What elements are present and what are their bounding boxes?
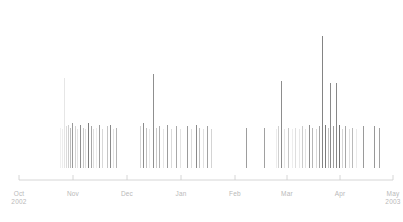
bar xyxy=(143,123,144,168)
bar xyxy=(171,129,172,168)
bar xyxy=(62,129,63,168)
bar xyxy=(281,81,282,168)
bar xyxy=(75,126,76,168)
bar xyxy=(180,129,181,168)
bar xyxy=(284,129,285,168)
bar xyxy=(374,126,375,168)
bar xyxy=(288,128,289,169)
bar xyxy=(93,129,94,168)
timeline-bar-chart: Oct2002NovDecJanFebMarAprMay2003 xyxy=(0,0,403,222)
bar xyxy=(91,126,92,168)
bar xyxy=(72,123,73,168)
bar xyxy=(309,125,310,169)
axis-label-month: Feb xyxy=(229,190,241,197)
bar xyxy=(60,128,61,169)
bar xyxy=(66,126,67,168)
axis-label-jan: Jan xyxy=(167,190,195,198)
bar xyxy=(196,125,197,169)
bar xyxy=(292,129,293,168)
bar xyxy=(203,129,204,168)
bar xyxy=(356,129,357,168)
axis-label-apr: Apr xyxy=(326,190,354,198)
bar xyxy=(113,129,114,168)
bar xyxy=(163,129,164,168)
bar xyxy=(191,129,192,168)
axis-label-mar: Mar xyxy=(273,190,301,198)
bar xyxy=(146,128,147,169)
bar xyxy=(167,125,168,169)
bar xyxy=(149,129,150,168)
bar xyxy=(107,126,108,168)
bar xyxy=(349,129,350,168)
bar xyxy=(328,128,329,169)
bar xyxy=(207,126,208,168)
axis-label-year: 2003 xyxy=(379,198,403,206)
bar xyxy=(352,128,353,169)
bar xyxy=(83,128,84,169)
bar xyxy=(339,125,340,169)
bar xyxy=(336,83,337,169)
bar xyxy=(319,126,320,168)
bar xyxy=(176,126,177,168)
bar xyxy=(316,129,317,168)
bar xyxy=(68,125,69,169)
bar xyxy=(156,128,157,169)
axis-label-month: Dec xyxy=(121,190,133,197)
bar xyxy=(199,128,200,169)
bar xyxy=(85,129,86,168)
bar xyxy=(276,129,277,168)
bar xyxy=(77,129,78,168)
axis-label-feb: Feb xyxy=(221,190,249,198)
axis-label-oct: Oct2002 xyxy=(5,190,33,206)
bar xyxy=(264,128,265,169)
bar xyxy=(299,129,300,168)
axis-label-may: May2003 xyxy=(379,190,403,206)
bar xyxy=(342,129,343,168)
axis-label-nov: Nov xyxy=(59,190,87,198)
bar xyxy=(322,36,323,168)
bar xyxy=(116,128,117,169)
bar xyxy=(305,129,306,168)
bar xyxy=(345,126,346,168)
bar xyxy=(110,125,111,169)
bar xyxy=(333,126,334,168)
bar xyxy=(99,125,100,169)
bar xyxy=(80,125,81,169)
axis-label-year: 2002 xyxy=(5,198,33,206)
bar xyxy=(325,125,326,169)
axis-label-month: Apr xyxy=(335,190,346,197)
bar xyxy=(187,126,188,168)
bar xyxy=(330,83,331,169)
axis-label-month: Mar xyxy=(281,190,293,197)
axis-label-month: May xyxy=(387,190,400,197)
bar xyxy=(159,126,160,168)
bar xyxy=(70,128,71,169)
bar xyxy=(302,126,303,168)
bar xyxy=(153,74,154,169)
bar xyxy=(211,129,212,168)
bar xyxy=(102,129,103,168)
plot-area xyxy=(0,0,403,175)
axis-label-month: Oct xyxy=(14,190,25,197)
bar xyxy=(246,128,247,169)
axis-label-month: Jan xyxy=(175,190,186,197)
bar xyxy=(96,128,97,169)
bar xyxy=(278,126,279,168)
axis-label-month: Nov xyxy=(67,190,79,197)
bar xyxy=(363,126,364,168)
bar xyxy=(140,126,141,168)
bar xyxy=(312,128,313,169)
bar xyxy=(88,123,89,168)
axis-label-dec: Dec xyxy=(113,190,141,198)
bar xyxy=(295,128,296,169)
bar xyxy=(379,128,380,169)
